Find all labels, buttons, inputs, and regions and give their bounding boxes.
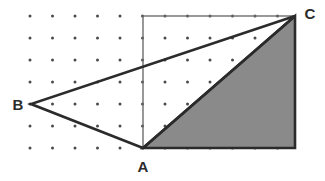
grid-dot [186, 103, 189, 106]
grid-dot [74, 125, 77, 128]
grid-dot [51, 15, 54, 18]
grid-dot [96, 59, 99, 62]
grid-dot [74, 147, 77, 150]
grid-dot [96, 147, 99, 150]
grid-dot [96, 125, 99, 128]
grid-dot [51, 37, 54, 40]
figure-canvas: ABC [0, 0, 325, 181]
grid-dot [29, 147, 32, 150]
grid-dot [29, 15, 32, 18]
grid-dot [119, 15, 122, 18]
grid-dot [96, 103, 99, 106]
grid-dot [119, 81, 122, 84]
geometry-figure: ABC [0, 0, 325, 181]
grid-dot [186, 37, 189, 40]
grid-dot [119, 125, 122, 128]
grid-dot [29, 59, 32, 62]
grid-dot [231, 59, 234, 62]
grid-dot [74, 103, 77, 106]
grid-dot [119, 147, 122, 150]
grid-dot [96, 37, 99, 40]
grid-dot [51, 147, 54, 150]
grid-dot [51, 59, 54, 62]
vertex-label-a: A [138, 158, 149, 175]
grid-dot [74, 37, 77, 40]
grid-dot [74, 15, 77, 18]
vertex-label-c: C [305, 5, 316, 22]
grid-dot [96, 15, 99, 18]
grid-dot [119, 37, 122, 40]
grid-dot [29, 125, 32, 128]
grid-dot [29, 37, 32, 40]
vertex-label-b: B [13, 96, 24, 113]
grid-dot [29, 81, 32, 84]
grid-dot [164, 81, 167, 84]
grid-dot [74, 81, 77, 84]
grid-dot [209, 81, 212, 84]
grid-dot [74, 59, 77, 62]
grid-dot [186, 59, 189, 62]
grid-dot [209, 59, 212, 62]
grid-dot [209, 37, 212, 40]
grid-dot [186, 81, 189, 84]
grid-dot [51, 103, 54, 106]
grid-dot [51, 125, 54, 128]
grid-dot [119, 59, 122, 62]
grid-dot [51, 81, 54, 84]
grid-dot [164, 37, 167, 40]
grid-dot [254, 37, 257, 40]
grid-dot [164, 103, 167, 106]
grid-dot [119, 103, 122, 106]
